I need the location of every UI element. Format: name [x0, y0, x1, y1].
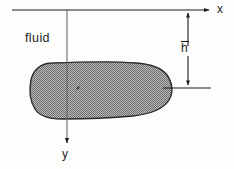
fluid-region-label: fluid	[25, 32, 50, 45]
depth-dimension-label: h	[181, 41, 188, 54]
h-letter: h	[181, 41, 188, 55]
y-axis-label: y	[62, 148, 68, 160]
submerged-body	[30, 62, 172, 119]
overbar-mark	[181, 41, 189, 42]
h-bar-wrapper: h	[181, 41, 188, 54]
diagram-svg	[0, 0, 234, 169]
x-axis-label: x	[217, 3, 223, 15]
figure-canvas: fluid x y h	[0, 0, 234, 169]
